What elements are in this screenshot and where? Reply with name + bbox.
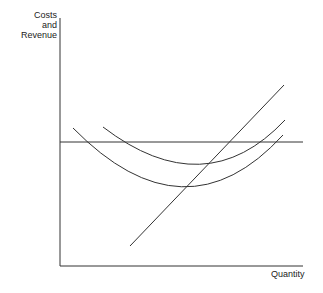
rising-straight-line bbox=[130, 85, 284, 246]
chart-canvas bbox=[0, 0, 323, 293]
lower-u-curve bbox=[73, 128, 283, 187]
